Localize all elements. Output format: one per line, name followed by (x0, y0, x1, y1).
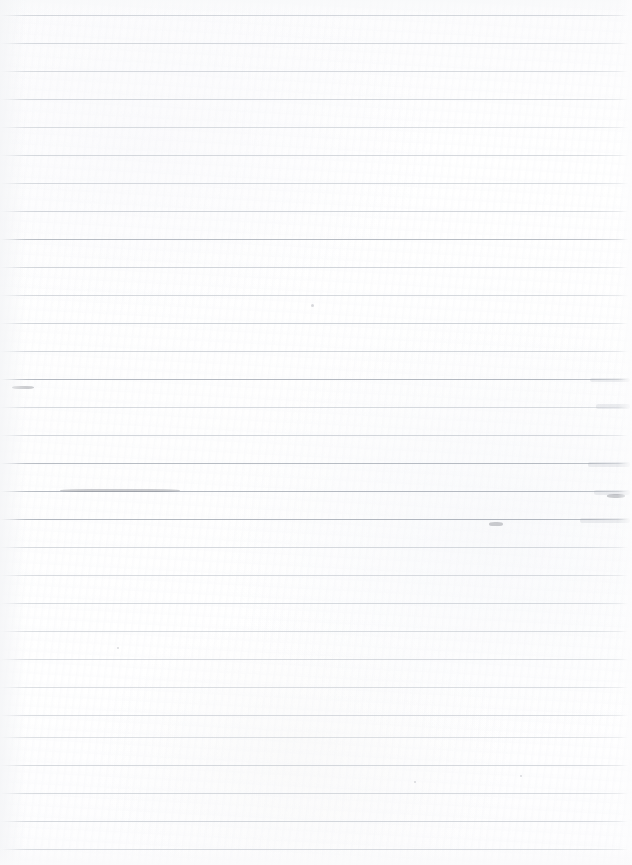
scanned-page (0, 0, 632, 865)
ruled-line (0, 43, 628, 44)
scan-edge-shadow-bottom (0, 847, 632, 865)
ruled-line (0, 211, 628, 212)
ruled-line (0, 99, 628, 100)
ruled-line (0, 183, 628, 184)
ruled-line (0, 323, 628, 324)
scan-edge-shadow-right (618, 0, 632, 865)
scan-artifacts-layer (0, 0, 632, 865)
ruled-line (0, 737, 628, 738)
ink-heavy-band (588, 462, 630, 467)
ruled-line (0, 351, 628, 352)
ruled-line (0, 155, 628, 156)
ruled-line (0, 127, 628, 128)
ink-smudge (60, 489, 180, 492)
ruled-line (0, 603, 628, 604)
ink-smudge (607, 494, 625, 498)
ruled-line (0, 849, 628, 850)
ruled-line (0, 71, 628, 72)
ruled-line (0, 463, 628, 464)
ink-heavy-band (596, 404, 630, 409)
paper-speck (520, 775, 522, 777)
paper-speck (311, 304, 314, 307)
paper-speck (414, 781, 416, 783)
ruled-line (0, 793, 628, 794)
ink-heavy-band (580, 518, 630, 523)
scan-edge-shadow-top (0, 0, 632, 16)
ruled-line (0, 821, 628, 822)
ink-heavy-band (590, 378, 630, 382)
ruled-line (0, 715, 628, 716)
ink-smudge (489, 522, 503, 526)
ruled-line (0, 295, 628, 296)
ruled-line (0, 547, 628, 548)
ruled-line (0, 631, 628, 632)
ruled-line (0, 519, 628, 520)
ruled-line (0, 15, 628, 16)
ruled-lines-layer (0, 0, 632, 865)
ruled-line (0, 435, 628, 436)
paper-grain-texture (0, 0, 632, 865)
ruled-line (0, 575, 628, 576)
ruled-line (0, 491, 628, 492)
ruled-line (0, 267, 628, 268)
ruled-line (0, 407, 628, 408)
ruled-line (0, 659, 628, 660)
ruled-line (0, 765, 628, 766)
scan-edge-shadow-left (0, 0, 26, 865)
ink-heavy-band (594, 490, 630, 495)
ruled-line (0, 379, 628, 380)
paper-speck (117, 647, 119, 649)
ruled-line (0, 239, 628, 240)
ink-smudge (12, 386, 34, 389)
page-text-content (0, 0, 1, 1)
ruled-line (0, 687, 628, 688)
